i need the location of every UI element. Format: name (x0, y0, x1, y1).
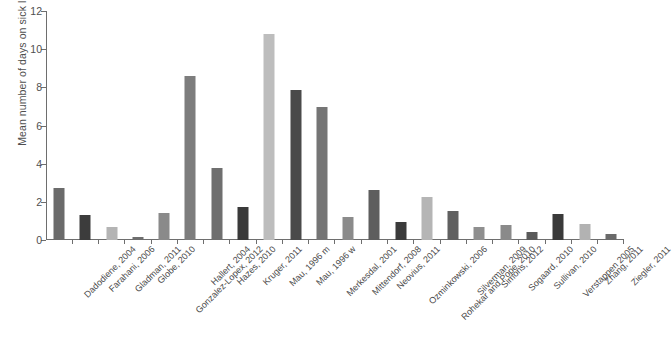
bar-slot (309, 11, 335, 240)
bar[interactable] (553, 214, 564, 240)
bar-slot (46, 11, 72, 240)
y-tick-label: 4 (36, 158, 42, 170)
y-tick-label: 10 (30, 43, 42, 55)
bar[interactable] (395, 222, 406, 240)
y-tick-label: 8 (36, 81, 42, 93)
bar[interactable] (159, 213, 170, 240)
bar[interactable] (80, 215, 91, 240)
bar-slot (414, 11, 440, 240)
y-tick: 0 (46, 240, 47, 241)
bar[interactable] (290, 90, 301, 240)
y-axis-title: Mean number of days on sick leave per mo… (16, 0, 28, 146)
bar-slot (388, 11, 414, 240)
bar[interactable] (448, 211, 459, 240)
bar-slot (177, 11, 203, 240)
bar-slot (256, 11, 282, 240)
bar[interactable] (211, 168, 222, 240)
bar[interactable] (500, 225, 511, 240)
bar-series (46, 11, 624, 240)
bar-slot (335, 11, 361, 240)
bar-slot (99, 11, 125, 240)
bar[interactable] (343, 217, 354, 240)
bar[interactable] (369, 190, 380, 240)
y-tick-label: 2 (36, 196, 42, 208)
bar-slot (598, 11, 624, 240)
bar-slot (519, 11, 545, 240)
bar-slot (466, 11, 492, 240)
bar[interactable] (106, 227, 117, 240)
bar[interactable] (185, 76, 196, 240)
bar[interactable] (238, 207, 249, 240)
y-tick-label: 12 (30, 5, 42, 17)
bar-slot (493, 11, 519, 240)
bar-slot (545, 11, 571, 240)
y-tick-label: 6 (36, 120, 42, 132)
bar[interactable] (579, 224, 590, 240)
bar[interactable] (527, 232, 538, 240)
bar-slot (282, 11, 308, 240)
bar[interactable] (132, 237, 143, 240)
bar[interactable] (474, 227, 485, 240)
bar-slot (72, 11, 98, 240)
bar-slot (361, 11, 387, 240)
y-tick-label: 0 (36, 234, 42, 246)
bar[interactable] (605, 234, 616, 240)
bar[interactable] (264, 34, 275, 240)
bar-slot (125, 11, 151, 240)
bar[interactable] (316, 107, 327, 240)
bar-slot (571, 11, 597, 240)
bar-slot (230, 11, 256, 240)
bar[interactable] (421, 197, 432, 240)
x-axis-label: Gonzalez-Lopex, 2012 (194, 244, 265, 315)
bar[interactable] (54, 188, 65, 240)
bar-slot (204, 11, 230, 240)
bar-slot (151, 11, 177, 240)
plot-area: 024681012 (46, 11, 624, 240)
bar-slot (440, 11, 466, 240)
x-axis-labels: Dadodiene, 2004Farahani, 2006Gladman, 20… (46, 244, 624, 339)
